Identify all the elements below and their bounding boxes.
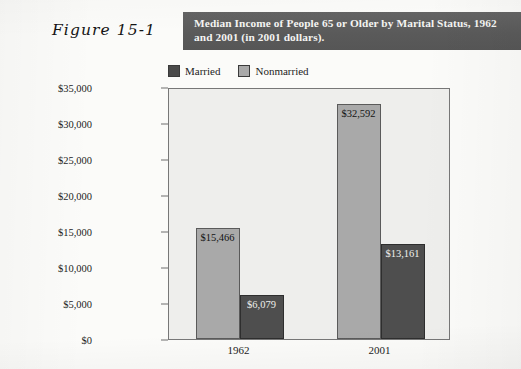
y-axis-tick-mark: [161, 88, 168, 89]
bar-nonmarried-2001: $32,592: [337, 104, 381, 339]
bar-nonmarried-1962: $15,466: [196, 228, 240, 339]
bar-value-label: $6,079: [247, 299, 276, 310]
y-axis-tick-label: $15,000: [58, 227, 92, 238]
y-axis-tick-mark: [161, 124, 168, 125]
y-axis-tick-label: $30,000: [58, 119, 92, 130]
bar-value-label: $13,161: [385, 248, 419, 259]
bar-value-label: $15,466: [200, 232, 234, 243]
bar-chart: $0$5,000$10,000$15,000$20,000$25,000$30,…: [0, 0, 521, 369]
y-axis-tick-mark: [161, 232, 168, 233]
y-axis-tick-label: $35,000: [58, 83, 92, 94]
y-axis-tick-mark: [161, 268, 168, 269]
x-axis-category-label: 1962: [228, 344, 250, 356]
y-axis-tick-label: $25,000: [58, 155, 92, 166]
y-axis-tick-mark: [161, 304, 168, 305]
y-axis: $0$5,000$10,000$15,000$20,000$25,000$30,…: [0, 0, 168, 369]
plot-area: $15,466$6,079$32,592$13,161: [168, 88, 450, 340]
x-axis-category-label: 2001: [369, 344, 391, 356]
x-axis: 19622001: [168, 344, 450, 362]
bar-married-2001: $13,161: [381, 244, 425, 339]
y-axis-tick-mark: [161, 160, 168, 161]
y-axis-tick-label: $0: [82, 335, 93, 346]
y-axis-tick-label: $20,000: [58, 191, 92, 202]
bar-value-label: $32,592: [341, 108, 375, 119]
y-axis-tick-mark: [161, 340, 168, 341]
y-axis-tick-label: $5,000: [63, 299, 92, 310]
y-axis-tick-label: $10,000: [58, 263, 92, 274]
bars-layer: $15,466$6,079$32,592$13,161: [169, 89, 449, 339]
y-axis-tick-mark: [161, 196, 168, 197]
bar-married-1962: $6,079: [240, 295, 284, 339]
